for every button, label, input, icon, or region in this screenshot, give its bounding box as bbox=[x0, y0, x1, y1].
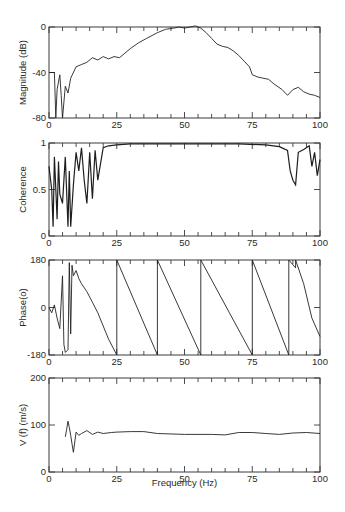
x-tick-label: 100 bbox=[312, 237, 328, 248]
x-tick-label: 100 bbox=[312, 119, 328, 130]
y-tick-label: 0.5 bbox=[33, 184, 46, 195]
panel-velocity: 02550751002001000V (f) (m/s) bbox=[17, 372, 328, 484]
y-axis-label: V (f) (m/s) bbox=[17, 404, 28, 446]
x-tick-label: 100 bbox=[312, 356, 328, 367]
x-tick-label: 75 bbox=[247, 356, 258, 367]
y-axis-label: Coherence bbox=[17, 166, 28, 212]
y-tick-label: 100 bbox=[30, 419, 46, 430]
data-curve bbox=[65, 421, 320, 452]
y-tick-label: 0 bbox=[41, 21, 46, 32]
x-tick-label: 0 bbox=[46, 473, 51, 484]
y-tick-label: 0 bbox=[41, 302, 46, 313]
x-tick-label: 50 bbox=[179, 237, 190, 248]
y-axis-label: Magnitude (dB) bbox=[17, 40, 28, 105]
x-tick-label: 50 bbox=[179, 119, 190, 130]
x-tick-label: 25 bbox=[111, 356, 122, 367]
data-curve bbox=[49, 144, 320, 227]
panel-coherence: 025507510010.50Coherence bbox=[17, 137, 328, 248]
plot-frame bbox=[49, 378, 320, 472]
y-tick-label: -40 bbox=[32, 67, 46, 78]
x-tick-label: 50 bbox=[179, 356, 190, 367]
x-tick-label: 75 bbox=[247, 119, 258, 130]
x-axis-label: Frequency (Hz) bbox=[152, 477, 217, 488]
x-tick-label: 0 bbox=[46, 356, 51, 367]
x-tick-label: 75 bbox=[247, 237, 258, 248]
x-tick-label: 75 bbox=[247, 473, 258, 484]
data-curve bbox=[49, 26, 320, 118]
y-tick-label: 1 bbox=[41, 137, 46, 148]
data-curve bbox=[49, 260, 320, 355]
y-tick-label: 0 bbox=[41, 230, 46, 241]
y-tick-label: -80 bbox=[32, 112, 46, 123]
plot-frame bbox=[49, 260, 320, 355]
x-tick-label: 0 bbox=[46, 119, 51, 130]
y-axis-label: Phase(o) bbox=[17, 288, 28, 327]
plot-frame bbox=[49, 27, 320, 118]
x-tick-label: 25 bbox=[111, 119, 122, 130]
y-tick-label: 0 bbox=[41, 466, 46, 477]
x-tick-label: 25 bbox=[111, 237, 122, 248]
y-tick-label: 200 bbox=[30, 372, 46, 383]
figure: 02550751000-40-80Magnitude (dB)025507510… bbox=[0, 0, 345, 512]
x-tick-label: 100 bbox=[312, 473, 328, 484]
panel-magnitude: 02550751000-40-80Magnitude (dB) bbox=[17, 21, 328, 130]
y-tick-label: -180 bbox=[27, 349, 46, 360]
x-tick-label: 25 bbox=[111, 473, 122, 484]
y-tick-label: 180 bbox=[30, 254, 46, 265]
panel-phase: 02550751001800-180Phase(o) bbox=[17, 254, 328, 367]
x-tick-label: 0 bbox=[46, 237, 51, 248]
